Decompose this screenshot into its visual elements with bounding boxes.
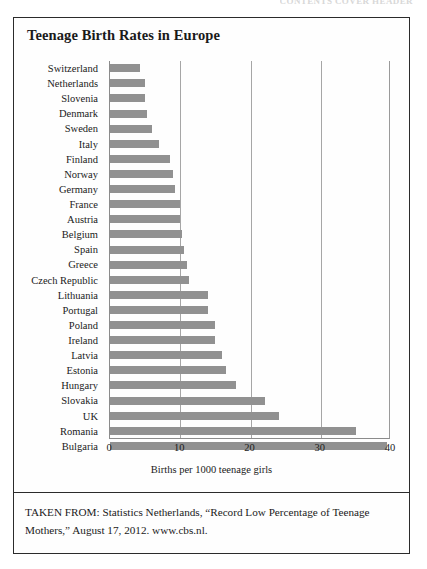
x-tick-label: 20 — [244, 442, 255, 453]
bar — [110, 79, 145, 87]
bar-row — [110, 167, 389, 182]
bar — [110, 230, 182, 238]
category-label: Germany — [14, 182, 104, 197]
category-label: Denmark — [14, 106, 104, 121]
category-label: Estonia — [14, 363, 104, 378]
x-axis-tick-labels: 010203040 — [109, 442, 390, 456]
bar-row — [110, 197, 389, 212]
bar-row — [110, 303, 389, 318]
bar-row — [110, 242, 389, 257]
bar-row — [110, 273, 389, 288]
bar — [110, 185, 175, 193]
bar-row — [110, 61, 389, 76]
figure-frame: Teenage Birth Rates in Europe Switzerlan… — [13, 17, 410, 554]
caption-divider — [14, 492, 409, 493]
category-label: Poland — [14, 318, 104, 333]
category-label: UK — [14, 409, 104, 424]
bar — [110, 125, 152, 133]
bar — [110, 246, 184, 254]
bar — [110, 412, 279, 420]
category-label: Slovakia — [14, 393, 104, 408]
page-header-cutoff-text: CONTENTS COVER HEADER — [280, 0, 413, 4]
chart-title: Teenage Birth Rates in Europe — [27, 27, 220, 44]
bar — [110, 321, 215, 329]
category-label: Finland — [14, 152, 104, 167]
bar-series — [110, 61, 389, 438]
bar — [110, 110, 147, 118]
bar — [110, 366, 226, 374]
category-label: Netherlands — [14, 76, 104, 91]
category-label: Romania — [14, 424, 104, 439]
bar-row — [110, 137, 389, 152]
bar — [110, 140, 159, 148]
category-label: Bulgaria — [14, 439, 104, 454]
x-tick-label: 0 — [106, 442, 111, 453]
bar — [110, 397, 265, 405]
bar-row — [110, 257, 389, 272]
category-label: Austria — [14, 212, 104, 227]
bar-row — [110, 318, 389, 333]
category-label: Latvia — [14, 348, 104, 363]
bar — [110, 351, 222, 359]
bar — [110, 261, 187, 269]
bar — [110, 336, 215, 344]
bar-row — [110, 288, 389, 303]
category-label: Greece — [14, 257, 104, 272]
bar-row — [110, 333, 389, 348]
bar — [110, 276, 189, 284]
category-label: Spain — [14, 242, 104, 257]
bar-row — [110, 106, 389, 121]
bar-row — [110, 424, 389, 439]
category-label: Ireland — [14, 333, 104, 348]
plot-area — [109, 61, 390, 439]
source-caption: TAKEN FROM: Statistics Netherlands, “Rec… — [25, 504, 395, 539]
x-axis-title: Births per 1000 teenage girls — [14, 464, 409, 475]
bar-row — [110, 363, 389, 378]
bar-row — [110, 182, 389, 197]
category-label: Belgium — [14, 227, 104, 242]
bar-row — [110, 378, 389, 393]
bar — [110, 155, 170, 163]
category-label: Norway — [14, 167, 104, 182]
category-label: Czech Republic — [14, 273, 104, 288]
bar-row — [110, 348, 389, 363]
bar — [110, 64, 140, 72]
bar — [110, 381, 236, 389]
category-label: Sweden — [14, 121, 104, 136]
bar — [110, 94, 145, 102]
bar — [110, 215, 180, 223]
bar-row — [110, 212, 389, 227]
bar — [110, 170, 173, 178]
bar — [110, 200, 180, 208]
bar — [110, 306, 208, 314]
category-label: France — [14, 197, 104, 212]
x-tick-label: 10 — [174, 442, 185, 453]
bar — [110, 427, 356, 435]
bar-row — [110, 227, 389, 242]
category-label: Switzerland — [14, 61, 104, 76]
x-tick-label: 30 — [315, 442, 326, 453]
bar-row — [110, 409, 389, 424]
category-label: Slovenia — [14, 91, 104, 106]
bar — [110, 291, 208, 299]
category-axis-labels: SwitzerlandNetherlandsSloveniaDenmarkSwe… — [14, 61, 104, 439]
bar-row — [110, 152, 389, 167]
bar-row — [110, 393, 389, 408]
x-tick-label: 40 — [385, 442, 396, 453]
category-label: Italy — [14, 137, 104, 152]
category-label: Lithuania — [14, 288, 104, 303]
bar-row — [110, 91, 389, 106]
category-label: Hungary — [14, 378, 104, 393]
category-label: Portugal — [14, 303, 104, 318]
bar-row — [110, 76, 389, 91]
bar-row — [110, 121, 389, 136]
